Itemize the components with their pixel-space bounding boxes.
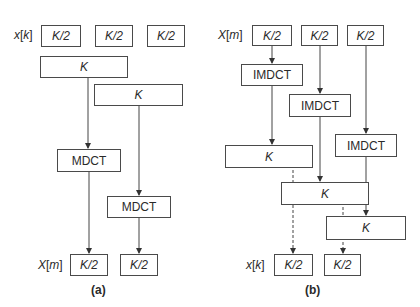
panel-b-caption: (b) [305,283,320,297]
panel-b-imdct-1: IMDCT [241,64,303,86]
panel-b-window-1: K [225,145,313,168]
panel-a-input-block-3: K/2 [147,25,185,47]
panel-b-window-2: K [281,182,369,205]
panel-b-input-block-2: K/2 [301,25,338,46]
panel-b-output-label: x[k] [246,258,265,272]
panel-b-imdct-2: IMDCT [289,94,351,117]
panel-b-window-3: K [326,216,406,240]
panel-a-input-block-2: K/2 [95,25,133,47]
panel-a-mdct-2: MDCT [107,196,171,218]
panel-a-input-block-1: K/2 [41,25,81,47]
panel-a-window-2: K [94,84,183,106]
panel-b-output-block-1: K/2 [274,254,313,276]
panel-b-output-block-2: K/2 [324,254,361,276]
panel-a-mdct-1: MDCT [57,149,121,172]
panel-a-caption: (a) [91,283,106,297]
mdct-imdct-diagram: x[k] K/2 K/2 K/2 K K MDCT MDCT X[m] K/2 … [0,0,420,307]
panel-a-output-label: X[m] [38,258,63,272]
panel-a-window-1: K [40,56,128,78]
panel-b-imdct-3: IMDCT [335,134,397,157]
panel-b-input-block-1: K/2 [252,25,292,46]
panel-a-output-block-2: K/2 [120,254,158,276]
panel-a-input-label: x[k] [14,28,33,42]
panel-b-input-block-3: K/2 [347,25,384,46]
panel-b-input-label: X[m] [218,28,243,42]
panel-a-output-block-1: K/2 [70,254,108,276]
